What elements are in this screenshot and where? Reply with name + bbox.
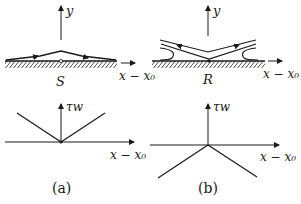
reverse-flow-right — [243, 48, 259, 60]
zero-point — [59, 140, 62, 143]
reattachment-point — [207, 59, 210, 62]
y-axis-label-b: y — [213, 4, 220, 17]
caption-a: (a) — [52, 181, 71, 195]
streamline — [6, 51, 116, 60]
x-axis-label-b-shear: x − x₀ — [260, 151, 296, 163]
diagram-canvas — [0, 0, 301, 204]
tau-axis-label-b: τw — [213, 101, 230, 113]
y-axis-label-a: y — [66, 4, 73, 17]
separation-point — [59, 59, 62, 62]
shear-curve — [158, 145, 257, 178]
x-axis-label-a: x − x₀ — [119, 70, 155, 82]
tau-axis-label-a: τw — [66, 101, 83, 113]
point-label-r: R — [203, 73, 213, 86]
panel-b-shear — [150, 104, 279, 178]
streamline-outer — [160, 40, 256, 52]
x-axis-label-a-shear: x − x₀ — [110, 149, 146, 161]
x-axis-label-b: x − x₀ — [263, 68, 299, 80]
point-label-s: S — [56, 75, 65, 88]
reverse-flow-left — [160, 48, 174, 60]
caption-b: (b) — [198, 181, 218, 195]
